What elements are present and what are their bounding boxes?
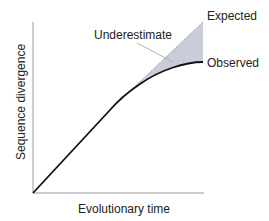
observed-curve bbox=[33, 62, 203, 193]
divergence-diagram: Expected Observed Underestimate Evolutio… bbox=[0, 0, 269, 221]
x-axis-label: Evolutionary time bbox=[78, 202, 170, 216]
expected-label: Expected bbox=[207, 9, 257, 23]
underestimate-pointer bbox=[137, 43, 173, 62]
y-axis-label: Sequence divergence bbox=[14, 44, 28, 160]
underestimate-label: Underestimate bbox=[94, 28, 172, 42]
observed-label: Observed bbox=[207, 56, 259, 70]
